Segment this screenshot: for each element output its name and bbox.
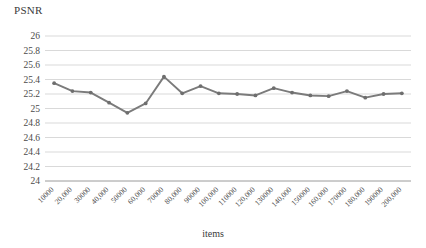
y-tick-label: 24 <box>31 176 41 186</box>
x-tick-label: 80,000 <box>163 185 184 206</box>
x-tick-label: 50000 <box>109 185 129 205</box>
x-tick-label: 10000 <box>36 185 56 205</box>
data-point-marker <box>199 84 203 88</box>
data-point-marker <box>107 101 111 105</box>
x-tick-label: 180,000 <box>343 185 367 209</box>
x-tick-label: 140,000 <box>270 185 294 209</box>
chart-plot-area: 2625.825.625.425.22524.824.624.424.22410… <box>0 0 426 248</box>
psnr-line-chart: PSNR 2625.825.625.425.22524.824.624.424.… <box>0 0 426 248</box>
y-tick-label: 25.2 <box>23 89 40 99</box>
x-tick-label: 30000 <box>72 185 92 205</box>
x-tick-label: 60,000 <box>126 185 147 206</box>
y-tick-label: 25 <box>31 104 41 114</box>
data-point-marker <box>125 111 129 115</box>
data-point-marker <box>71 89 75 93</box>
data-point-marker <box>89 91 93 95</box>
y-tick-label: 25.6 <box>23 60 40 70</box>
data-point-marker <box>382 92 386 96</box>
data-point-marker <box>272 86 276 90</box>
x-axis-title: items <box>0 228 426 239</box>
y-tick-label: 24.4 <box>23 147 40 157</box>
x-tick-label: 40,000 <box>89 185 110 206</box>
y-tick-label: 25.8 <box>23 46 40 56</box>
series-line-psnr <box>54 77 402 113</box>
y-tick-label: 26 <box>31 31 41 41</box>
data-point-marker <box>308 94 312 98</box>
x-tick-label: 20,000 <box>53 185 74 206</box>
data-point-marker <box>363 96 367 100</box>
x-tick-label: 70000 <box>146 185 166 205</box>
data-point-marker <box>345 89 349 93</box>
x-tick-label: 200,000 <box>379 185 403 209</box>
x-tick-label: 100,000 <box>196 185 220 209</box>
x-tick-label: 120,000 <box>233 185 257 209</box>
data-point-marker <box>290 91 294 95</box>
data-point-marker <box>235 92 239 96</box>
y-tick-label: 25.4 <box>23 75 40 85</box>
data-point-marker <box>52 81 56 85</box>
data-point-marker <box>327 94 331 98</box>
x-tick-label: 160,000 <box>306 185 330 209</box>
data-point-marker <box>254 94 258 98</box>
data-point-marker <box>400 91 404 95</box>
data-point-marker <box>217 91 221 95</box>
y-tick-label: 24.6 <box>23 133 40 143</box>
data-point-marker <box>162 75 166 79</box>
data-point-marker <box>180 91 184 95</box>
data-point-marker <box>144 102 148 106</box>
y-tick-label: 24.8 <box>23 118 40 128</box>
y-tick-label: 24.2 <box>23 162 40 172</box>
